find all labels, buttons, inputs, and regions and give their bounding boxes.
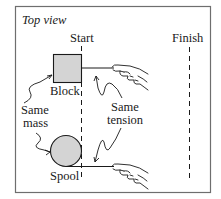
same-tension-label-line1: Same: [111, 100, 139, 114]
spool-label: Spool: [50, 169, 80, 183]
same-mass-label-line1: Same: [21, 103, 49, 117]
block: [54, 55, 82, 83]
start-label: Start: [70, 31, 94, 45]
top-view-diagram: Top view Start Finish Block Spool Same m…: [0, 0, 221, 199]
finish-label: Finish: [172, 31, 204, 45]
spool: [51, 136, 82, 167]
same-tension-label-line2: tension: [107, 113, 144, 127]
block-label: Block: [50, 84, 81, 98]
title-label: Top view: [22, 13, 67, 27]
same-mass-label-line2: mass: [23, 116, 48, 130]
